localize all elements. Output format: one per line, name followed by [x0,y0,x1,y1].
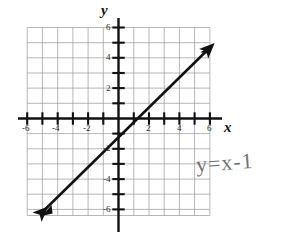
y-tick-label--6: -6 [103,205,111,214]
x-tick-label-6: 6 [207,124,212,133]
x-tick-label-2: 2 [146,124,151,133]
x-tick-label--2: -2 [83,124,91,133]
y-tick-label-4: 4 [106,53,111,62]
x-tick-label-4: 4 [177,124,182,133]
y-axis-label: y [101,3,108,18]
graph-figure: y x -6 -4 -2 2 4 6 6 4 2 -2 -4 -6 y=x-1 [0,0,292,243]
handwritten-equation-annotation: y=x-1 [195,148,254,178]
coordinate-plane-svg [0,0,292,243]
y-tick-label-6: 6 [106,23,111,32]
y-tick-label--4: -4 [103,175,111,184]
x-axis-label: x [224,120,232,135]
x-tick-label--4: -4 [52,124,60,133]
plotted-line-y-equals-x-minus-1 [42,46,211,216]
y-tick-label--2: -2 [103,144,111,153]
x-tick-label--6: -6 [22,124,30,133]
y-tick-label-2: 2 [106,84,111,93]
